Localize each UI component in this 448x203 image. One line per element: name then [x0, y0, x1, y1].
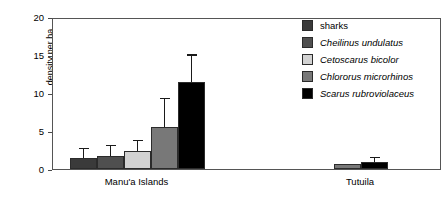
error-cap-0-4 — [187, 54, 197, 55]
legend-item-0[interactable]: sharks — [302, 17, 444, 33]
error-bar-0-0 — [83, 149, 84, 158]
bar-1-3 — [334, 164, 361, 169]
x-group-label-manua: Manu'a Islands — [77, 176, 197, 187]
bar-0-3 — [151, 127, 178, 169]
error-cap-0-0 — [79, 148, 89, 149]
legend-label-3: Chlororus microrhinos — [320, 71, 413, 82]
error-cap-0-3 — [160, 98, 170, 99]
bar-0-4 — [178, 82, 205, 169]
legend: sharksCheilinus undulatusCetoscarus bico… — [302, 17, 444, 102]
y-tick-label-10: 10 — [18, 89, 44, 99]
x-group-label-tutuila: Tutuila — [300, 176, 420, 187]
bar-0-1 — [97, 156, 124, 169]
error-bar-0-2 — [137, 141, 138, 151]
error-bar-0-4 — [191, 56, 192, 82]
y-tick-label-5: 5 — [18, 127, 44, 137]
legend-item-4[interactable]: Scarus rubroviolaceus — [302, 85, 444, 101]
legend-swatch-icon-3 — [302, 71, 313, 82]
legend-swatch-icon-0 — [302, 20, 313, 31]
legend-item-3[interactable]: Chlororus microrhinos — [302, 68, 444, 84]
y-tick-label-15: 15 — [18, 51, 44, 61]
error-cap-0-2 — [133, 140, 143, 141]
legend-swatch-icon-4 — [302, 88, 313, 99]
y-tick-label-0: 0 — [18, 165, 44, 175]
y-axis-ticks: 20151050 — [18, 0, 44, 203]
bar-0-2 — [124, 151, 151, 169]
chart-figure: density per ha 20151050 Manu'a Islands T… — [0, 0, 448, 203]
legend-label-0: sharks — [320, 20, 348, 31]
error-bar-0-3 — [164, 99, 165, 127]
legend-label-2: Cetoscarus bicolor — [320, 54, 399, 65]
bar-0-0 — [70, 158, 97, 169]
error-cap-1-4 — [370, 157, 380, 158]
y-tick-mark-0 — [48, 170, 52, 171]
legend-item-2[interactable]: Cetoscarus bicolor — [302, 51, 444, 67]
legend-label-1: Cheilinus undulatus — [320, 37, 403, 48]
legend-item-1[interactable]: Cheilinus undulatus — [302, 34, 444, 50]
error-bar-0-1 — [110, 146, 111, 156]
legend-swatch-icon-1 — [302, 37, 313, 48]
legend-swatch-icon-2 — [302, 54, 313, 65]
error-cap-0-1 — [106, 145, 116, 146]
bar-1-4 — [361, 162, 388, 169]
error-bar-1-4 — [374, 158, 375, 162]
legend-label-4: Scarus rubroviolaceus — [320, 88, 414, 99]
y-tick-label-20: 20 — [18, 13, 44, 23]
